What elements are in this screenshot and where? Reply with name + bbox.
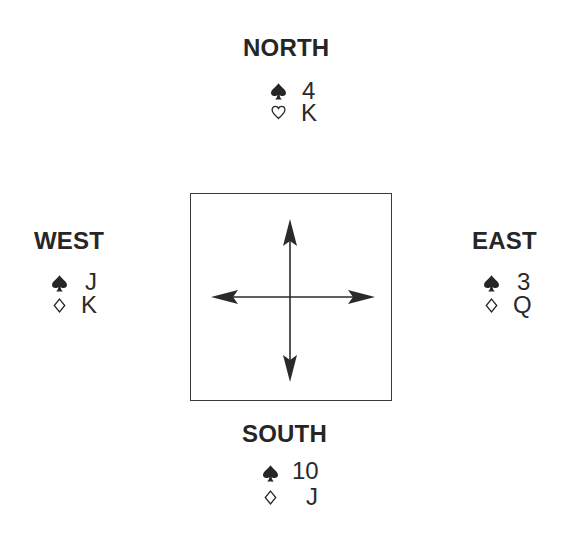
south-diamond-rank: J [306, 485, 318, 509]
direction-arrows-icon [0, 0, 567, 544]
south-label: SOUTH [242, 422, 327, 446]
south-spade-rank: 10 [292, 459, 319, 483]
diamond-outline-icon [263, 490, 278, 505]
spade-icon [263, 465, 278, 482]
